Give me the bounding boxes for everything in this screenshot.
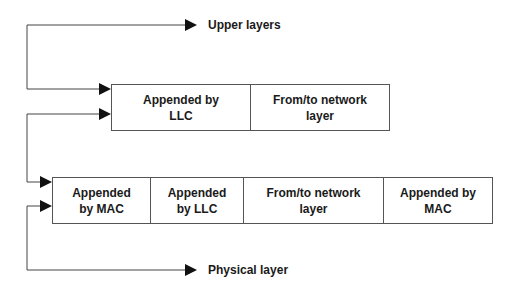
arrow-mac-out-icon (40, 200, 52, 212)
mac-frame: Appended by MAC Appended by LLC From/to … (52, 177, 493, 224)
mac-header-cell: Appended by MAC (53, 178, 151, 223)
mac-trailer-cell: Appended by MAC (384, 178, 492, 223)
mac-payload-cell: From/to network layer (244, 178, 384, 223)
llc-payload-cell: From/to network layer (251, 85, 389, 130)
arrow-mac-in-icon (40, 176, 52, 188)
upper-layers-label: Upper layers (208, 18, 281, 32)
connector-lines (0, 0, 517, 294)
arrow-physical-icon (185, 264, 197, 276)
mac-llc-header-cell: Appended by LLC (151, 178, 244, 223)
physical-layer-label: Physical layer (208, 263, 288, 277)
llc-frame: Appended by LLC From/to network layer (111, 84, 390, 131)
arrow-llc-out-icon (99, 108, 111, 120)
arrow-llc-in-icon (99, 83, 111, 95)
arrow-upper-icon (185, 19, 197, 31)
llc-header-cell: Appended by LLC (112, 85, 251, 130)
